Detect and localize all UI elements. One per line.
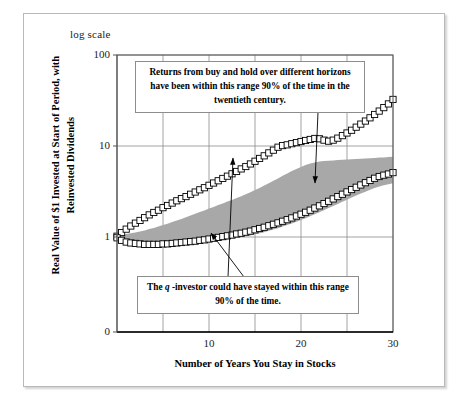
annotation-bottom-post: -investor could have stayed within this … xyxy=(170,282,349,306)
x-tick-label-20: 20 xyxy=(286,337,316,349)
x-axis-title: Number of Years You Stay in Stocks xyxy=(117,358,393,369)
annotation-box-bottom: The q -investor could have stayed within… xyxy=(137,276,359,314)
chart-plot-area: 100 10 1 0 10 20 30 Real Value of $1 Inv… xyxy=(0,0,464,399)
y-tick-label-0: 0 xyxy=(70,325,110,337)
annotation-box-top: Returns from buy and hold over different… xyxy=(135,61,365,113)
x-tick-label-10: 10 xyxy=(194,337,224,349)
y-axis-title: Real Value of $1 Invested at Start of Pe… xyxy=(48,50,78,280)
annotation-bottom-pre: The xyxy=(147,282,165,292)
x-tick-label-30: 30 xyxy=(378,337,408,349)
